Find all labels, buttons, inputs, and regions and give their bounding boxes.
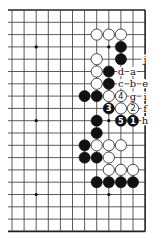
black-stone bbox=[127, 177, 138, 188]
move-number: 3 bbox=[106, 104, 112, 113]
point-label: d bbox=[117, 66, 124, 77]
point-label: i bbox=[142, 91, 149, 102]
svg-text:c: c bbox=[118, 78, 124, 89]
white-stone bbox=[91, 54, 102, 65]
svg-text:e: e bbox=[142, 78, 148, 89]
point-label: h bbox=[142, 115, 149, 126]
black-stone bbox=[79, 91, 90, 102]
white-stone bbox=[115, 103, 126, 114]
move-number: 2 bbox=[130, 104, 135, 113]
black-stone bbox=[103, 66, 114, 77]
point-label: j bbox=[142, 54, 149, 65]
white-stone bbox=[115, 29, 126, 40]
black-stone: 3 bbox=[103, 103, 114, 114]
star-point bbox=[35, 193, 38, 196]
svg-text:h: h bbox=[142, 115, 149, 126]
point-label: g bbox=[129, 91, 136, 102]
point-label: c bbox=[117, 78, 124, 89]
black-stone: 1 bbox=[127, 115, 138, 126]
black-stone bbox=[91, 115, 102, 126]
white-stone: 2 bbox=[127, 103, 138, 114]
black-stone bbox=[103, 177, 114, 188]
point-label: e bbox=[142, 78, 149, 89]
black-stone bbox=[115, 41, 126, 52]
point-label: b bbox=[129, 78, 136, 89]
white-stone bbox=[103, 140, 114, 151]
black-stone: 5 bbox=[115, 115, 126, 126]
go-board: 43251 jdacbegifh bbox=[0, 0, 153, 237]
black-stone bbox=[79, 140, 90, 151]
move-number: 4 bbox=[118, 92, 123, 101]
white-stone bbox=[91, 78, 102, 89]
svg-text:g: g bbox=[130, 91, 137, 102]
svg-text:a: a bbox=[130, 66, 136, 77]
svg-text:i: i bbox=[143, 91, 146, 102]
black-stone bbox=[115, 54, 126, 65]
white-stone bbox=[115, 164, 126, 175]
svg-text:b: b bbox=[130, 78, 136, 89]
star-point bbox=[107, 45, 110, 48]
white-stone bbox=[127, 164, 138, 175]
star-point bbox=[35, 119, 38, 122]
black-stone bbox=[91, 177, 102, 188]
black-stone bbox=[91, 152, 102, 163]
star-point bbox=[107, 119, 110, 122]
white-stone bbox=[91, 66, 102, 77]
black-stone bbox=[91, 127, 102, 138]
white-stone bbox=[91, 140, 102, 151]
white-stone: 4 bbox=[115, 91, 126, 102]
point-label: f bbox=[142, 103, 149, 114]
white-stone bbox=[103, 152, 114, 163]
white-stone bbox=[103, 29, 114, 40]
point-label: a bbox=[129, 66, 136, 77]
star-point bbox=[107, 193, 110, 196]
white-stone bbox=[103, 164, 114, 175]
black-stone bbox=[115, 177, 126, 188]
white-stone bbox=[103, 91, 114, 102]
star-point bbox=[35, 45, 38, 48]
black-stone bbox=[79, 152, 90, 163]
svg-text:j: j bbox=[143, 54, 147, 65]
move-number: 1 bbox=[130, 117, 136, 126]
move-number: 5 bbox=[118, 117, 124, 126]
black-stone bbox=[91, 91, 102, 102]
svg-text:d: d bbox=[118, 66, 125, 77]
white-stone bbox=[115, 140, 126, 151]
black-stone bbox=[103, 78, 114, 89]
white-stone bbox=[91, 29, 102, 40]
